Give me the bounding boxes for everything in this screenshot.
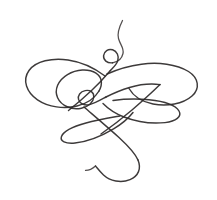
inner-loop-to-right-connector-stroke (106, 84, 160, 97)
top-small-loop-stroke (104, 49, 119, 70)
lower-left-pointed-lobe-stroke (61, 113, 133, 144)
artboard: Calligraphic Flourish Ornament A single … (0, 0, 217, 200)
center-descending-stroke (84, 107, 138, 160)
bottom-tail-taper-stroke (86, 166, 96, 170)
bottom-hook-tail-stroke (96, 160, 140, 181)
flourish-illustration: Calligraphic Flourish Ornament A single … (0, 0, 217, 200)
